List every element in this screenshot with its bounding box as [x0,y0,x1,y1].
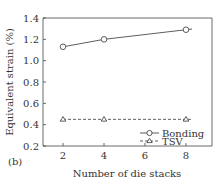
y-tick-label: 0.8 [23,77,39,88]
data-series [60,27,192,121]
triangle-marker-icon [60,117,66,122]
y-axis-label: Equivalent strain (%) [4,28,15,136]
circle-marker-icon [60,44,66,50]
y-axis: 0.20.40.60.81.01.21.4 [23,13,46,152]
x-axis-label: Number of die stacks [73,168,181,179]
panel-label: (b) [8,156,22,167]
chart: 0.20.40.60.81.01.21.4 2468 Equivalent st… [0,0,219,184]
x-tick-label: 6 [142,150,148,161]
x-tick-label: 8 [183,150,189,161]
y-tick-label: 0.6 [23,98,39,109]
y-tick-label: 0.2 [23,141,39,152]
series-line-bonding [63,29,192,47]
legend-tsv: TSV [162,136,184,147]
circle-marker-icon [101,37,107,43]
legend: Bonding TSV [140,128,205,147]
triangle-marker-icon [147,138,152,142]
x-tick-label: 4 [101,150,107,161]
circle-marker-icon [183,27,189,33]
y-tick-label: 0.4 [23,119,39,130]
x-tick-label: 2 [60,150,66,161]
y-tick-label: 1.4 [23,13,39,24]
y-tick-label: 1.2 [23,34,39,45]
triangle-marker-icon [183,117,189,122]
y-tick-label: 1.0 [23,55,39,66]
triangle-marker-icon [101,117,107,122]
circle-marker-icon [147,130,152,135]
